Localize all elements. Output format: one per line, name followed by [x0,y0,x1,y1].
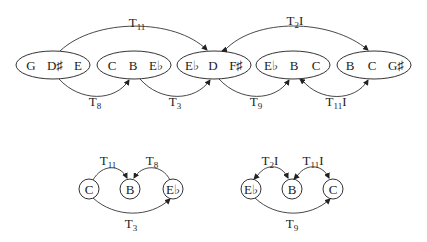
edge-label: T3 [125,216,138,233]
transformation-network-diagram: G D♯ E C B E♭ E♭ D F♯ E♭ B C B C G♯ [0,0,427,242]
note-label: F♯ [229,58,243,73]
edge-label: T11I [303,153,324,170]
top-network: G D♯ E C B E♭ E♭ D F♯ E♭ B C B C G♯ [16,13,411,111]
node-ellipse-5: B C G♯ [337,51,411,79]
note-label: B [346,58,355,73]
node-ellipse-4: E♭ B C [256,51,330,79]
note-label: E [74,58,82,73]
edge-arrow [134,168,170,180]
note-label: E♭ [185,58,199,73]
note-label: E♭ [264,58,278,73]
edge-label: T11 [100,153,117,170]
edge-label: T2I [262,153,279,170]
edge-arrowhead-start [254,175,258,179]
node-ellipse-2: C B E♭ [97,51,171,79]
note-label: G [26,58,35,73]
note-label: D♯ [47,58,63,73]
note-label: D [208,58,217,73]
note-label: G♯ [388,58,404,73]
edge-arrowhead-start [300,79,305,83]
edge-label: T9 [286,216,299,233]
node-ellipse-3: E♭ D F♯ [177,51,251,79]
note-label: C [312,58,321,73]
edge-label: T8 [146,153,159,170]
edge-arrowhead-start [222,50,225,51]
edge-arrow [302,80,368,97]
edge-arrow [255,198,330,213]
note-label: E♭ [244,182,258,197]
edge-arrow [93,198,170,213]
note-label: E♭ [149,58,163,73]
note-label: C [108,58,117,73]
note-label: C [85,182,94,197]
note-label: B [129,58,138,73]
note-label: B [290,58,299,73]
note-label: B [288,182,297,197]
edge-label: T2I [287,13,304,30]
bottom-right-network: E♭ B C T2I T11I T9 [241,153,343,233]
edge-label: T11 [129,15,146,32]
note-label: B [126,182,135,197]
note-label: C [329,182,338,197]
bottom-left-network: C B E♭ T11 T8 T3 [79,153,183,233]
note-label: C [368,58,377,73]
edge-arrowhead-start [294,175,298,179]
node-ellipse-1: G D♯ E [16,51,90,79]
note-label: E♭ [166,182,180,197]
